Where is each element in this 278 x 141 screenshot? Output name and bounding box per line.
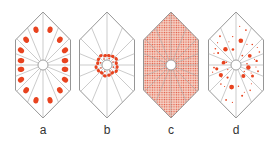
panel-label-d: d xyxy=(233,123,240,137)
panel-c xyxy=(144,12,199,118)
central-circle xyxy=(38,60,48,70)
panel-label-b: b xyxy=(104,123,111,137)
central-circle xyxy=(231,60,241,70)
panel-b xyxy=(80,12,135,118)
panel-label-a: a xyxy=(40,123,47,137)
central-circle xyxy=(166,60,176,70)
panel-a xyxy=(16,12,71,118)
hexagon-diagram-figure: a b c d xyxy=(0,0,278,141)
panel-label-c: c xyxy=(168,123,174,137)
central-circle xyxy=(102,60,112,70)
panel-d xyxy=(209,12,264,118)
